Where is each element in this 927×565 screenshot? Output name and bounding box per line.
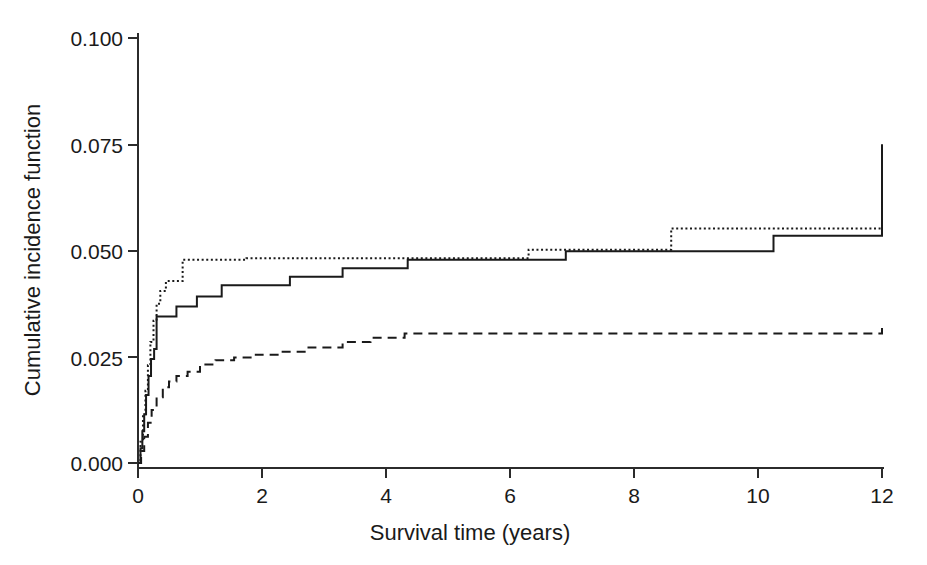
y-axis-tick-marks bbox=[128, 38, 138, 463]
x-tick-label: 10 bbox=[746, 484, 769, 507]
y-tick-label: 0.000 bbox=[70, 452, 123, 475]
x-tick-label: 12 bbox=[870, 484, 893, 507]
y-tick-label: 0.075 bbox=[70, 134, 123, 157]
y-axis-tick-labels: 0.100 0.075 0.050 0.025 0.000 bbox=[70, 27, 123, 475]
x-tick-label: 4 bbox=[380, 484, 392, 507]
cumulative-incidence-chart: 0.100 0.075 0.050 0.025 0.000 bbox=[0, 0, 927, 565]
dotted-curve bbox=[138, 186, 882, 463]
y-axis-title: Cumulative incidence function bbox=[20, 104, 45, 396]
x-axis-tick-labels: 0 2 4 6 8 10 12 bbox=[132, 484, 894, 507]
x-axis-title: Survival time (years) bbox=[370, 520, 570, 545]
y-tick-label: 0.050 bbox=[70, 240, 123, 263]
solid-curve bbox=[138, 144, 882, 463]
dashed-curve bbox=[138, 325, 882, 463]
x-tick-label: 8 bbox=[628, 484, 640, 507]
x-tick-label: 0 bbox=[132, 484, 144, 507]
x-tick-label: 6 bbox=[504, 484, 516, 507]
x-tick-label: 2 bbox=[256, 484, 268, 507]
x-axis-tick-marks bbox=[138, 468, 882, 478]
y-tick-label: 0.100 bbox=[70, 27, 123, 50]
series-layer bbox=[138, 144, 882, 463]
chart-canvas: 0.100 0.075 0.050 0.025 0.000 bbox=[0, 0, 927, 565]
y-tick-label: 0.025 bbox=[70, 347, 123, 370]
